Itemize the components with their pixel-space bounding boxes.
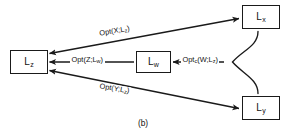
node-label-lx: Lx bbox=[256, 12, 265, 23]
node-box-lz[interactable]: Lz bbox=[10, 50, 48, 74]
node-label-ly: Ly bbox=[256, 103, 265, 114]
node-box-lx[interactable]: Lx bbox=[242, 5, 280, 29]
figure-caption: (b) bbox=[0, 118, 286, 128]
edge-label-opt-z-lw: Opt(Z;Lw) bbox=[70, 56, 105, 65]
brace-lx-ly-icon bbox=[233, 32, 259, 94]
node-label-lw: Lw bbox=[148, 57, 159, 68]
edge-label-opt-c-w-lz: Optc(W;Lz) bbox=[181, 56, 219, 65]
edge-lz-ly bbox=[50, 71, 240, 109]
node-box-ly[interactable]: Ly bbox=[242, 96, 280, 120]
figure-container: Lz Lw Lx Ly Opt(X;Lz) Opt(Z;Lw) Optc(W;L… bbox=[0, 0, 286, 131]
node-label-lz: Lz bbox=[24, 57, 33, 68]
edge-lz-lx bbox=[50, 19, 240, 54]
node-box-lw[interactable]: Lw bbox=[136, 51, 171, 73]
